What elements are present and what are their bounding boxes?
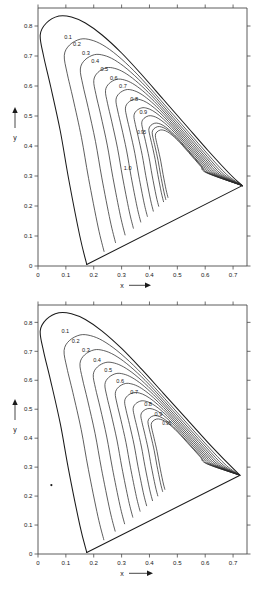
yaxis-arrow-head	[12, 107, 17, 113]
yaxis-title-text: y	[13, 426, 17, 434]
svg-text:0.95: 0.95	[162, 421, 171, 426]
svg-text:0.5: 0.5	[104, 367, 112, 373]
chart-bottom-xaxis-title: x	[120, 570, 153, 577]
svg-text:0.7: 0.7	[229, 559, 238, 566]
chart-top-contours	[64, 39, 242, 252]
svg-text:0.3: 0.3	[117, 271, 126, 278]
svg-text:0.8: 0.8	[24, 22, 33, 29]
svg-text:0.1: 0.1	[61, 328, 69, 334]
svg-text:0.7: 0.7	[24, 52, 33, 59]
svg-text:0.3: 0.3	[82, 50, 90, 56]
chart-top-frame	[38, 8, 247, 266]
svg-text:0.6: 0.6	[201, 559, 210, 566]
svg-text:0.3: 0.3	[24, 172, 33, 179]
svg-text:0.5: 0.5	[24, 405, 33, 412]
svg-text:0.4: 0.4	[24, 142, 33, 149]
svg-text:0.6: 0.6	[24, 82, 33, 89]
chart-top-yaxis-title: y	[12, 107, 17, 142]
svg-text:0.4: 0.4	[24, 434, 33, 441]
svg-text:0.9: 0.9	[154, 411, 162, 417]
svg-text:0.4: 0.4	[145, 559, 154, 566]
svg-text:0.7: 0.7	[229, 271, 238, 278]
svg-text:0.2: 0.2	[24, 492, 33, 499]
svg-text:0.2: 0.2	[72, 338, 80, 344]
svg-text:0.9: 0.9	[139, 109, 147, 115]
svg-text:0.6: 0.6	[24, 376, 33, 383]
svg-text:0.5: 0.5	[24, 112, 33, 119]
svg-text:0: 0	[36, 559, 40, 566]
svg-text:0: 0	[29, 550, 33, 557]
chart-top-yticklabels: 00.10.20.30.40.50.60.70.8	[24, 22, 33, 269]
svg-text:1.0: 1.0	[124, 165, 132, 171]
chart-bottom-yticks	[35, 322, 39, 554]
chart-top-figure: 0.10.20.30.40.50.60.70.80.90.951.0 00.10…	[0, 0, 271, 299]
svg-text:0: 0	[36, 271, 40, 278]
chart-top-contour-labels: 0.10.20.30.40.50.60.70.80.90.951.0	[64, 34, 147, 171]
xaxis-title-text: x	[120, 282, 124, 289]
svg-text:0.8: 0.8	[144, 401, 152, 407]
chart-top-xticks	[38, 266, 233, 270]
chart-top-xticks-upper	[38, 5, 233, 9]
svg-text:0.4: 0.4	[93, 357, 101, 363]
chart-top-xticklabels: 00.10.20.30.40.50.60.7	[36, 271, 238, 278]
xaxis-arrow-head	[147, 571, 153, 576]
svg-text:0.7: 0.7	[119, 83, 127, 89]
svg-text:0.5: 0.5	[100, 66, 108, 72]
svg-text:0.6: 0.6	[116, 378, 124, 384]
svg-text:0.1: 0.1	[24, 232, 33, 239]
chart-bottom-svg: 0.10.20.30.40.50.60.70.80.90.95 00.10.20…	[0, 299, 271, 598]
chart-bottom-yticks-right	[247, 322, 251, 554]
svg-text:0.6: 0.6	[201, 271, 210, 278]
chart-bottom-contours	[64, 335, 240, 540]
svg-text:0.4: 0.4	[145, 271, 154, 278]
plot-frame	[38, 305, 247, 554]
chart-bottom-yticklabels: 00.10.20.30.40.50.60.70.8	[24, 319, 33, 558]
chart-top-yticks-right	[247, 26, 251, 266]
svg-text:0.2: 0.2	[24, 202, 33, 209]
svg-text:0.3: 0.3	[117, 559, 126, 566]
figure-page: 0.10.20.30.40.50.60.70.80.90.951.0 00.10…	[0, 0, 271, 598]
yaxis-arrow-head	[12, 399, 17, 405]
chart-bottom-yaxis-title: y	[12, 399, 17, 434]
svg-text:0.5: 0.5	[173, 271, 182, 278]
chart-bottom-reference-point	[50, 484, 52, 486]
svg-text:0.8: 0.8	[130, 96, 138, 102]
svg-text:0.8: 0.8	[24, 319, 33, 326]
yaxis-title-text: y	[13, 134, 17, 142]
svg-text:0.3: 0.3	[24, 463, 33, 470]
chart-bottom-xticklabels: 00.10.20.30.40.50.60.7	[36, 559, 238, 566]
xaxis-title-text: x	[120, 570, 124, 577]
svg-text:0.1: 0.1	[64, 34, 72, 40]
chart-top-yticks	[35, 26, 39, 266]
chart-top-xaxis-title: x	[120, 282, 151, 289]
svg-text:0.5: 0.5	[173, 559, 182, 566]
svg-text:0.95: 0.95	[137, 130, 146, 135]
svg-text:0.7: 0.7	[130, 389, 138, 395]
chart-bottom-figure: 0.10.20.30.40.50.60.70.80.90.95 00.10.20…	[0, 299, 271, 598]
svg-text:0: 0	[29, 262, 33, 269]
chart-bottom-xticks	[38, 554, 233, 558]
chart-bottom-frame	[38, 305, 247, 554]
svg-text:0.2: 0.2	[89, 559, 98, 566]
svg-text:0.3: 0.3	[82, 347, 90, 353]
svg-text:0.4: 0.4	[91, 58, 99, 64]
svg-text:0.6: 0.6	[110, 75, 118, 81]
svg-text:0.2: 0.2	[73, 41, 81, 47]
svg-text:0.1: 0.1	[24, 521, 33, 528]
chart-bottom-spectral-locus	[40, 312, 240, 552]
chart-top-spectral-locus	[40, 16, 242, 265]
chart-top-svg: 0.10.20.30.40.50.60.70.80.90.951.0 00.10…	[0, 0, 271, 299]
chart-bottom-xticks-upper	[38, 302, 233, 306]
svg-text:0.2: 0.2	[89, 271, 98, 278]
svg-text:0.1: 0.1	[62, 559, 71, 566]
svg-text:0.1: 0.1	[62, 271, 71, 278]
xaxis-arrow-head	[145, 283, 151, 288]
plot-frame	[38, 8, 247, 266]
svg-text:0.7: 0.7	[24, 348, 33, 355]
